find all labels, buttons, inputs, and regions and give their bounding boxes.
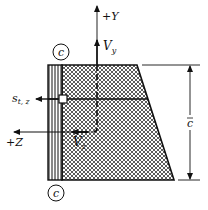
cross-section-diagram: +Y Vy st, z +Z Vz c c c — [0, 0, 208, 210]
vertical-striped-strip — [48, 65, 62, 180]
label-plus-z: +Z — [6, 136, 23, 149]
label-plus-y: +Y — [102, 10, 120, 23]
label-c-top: c — [58, 46, 64, 59]
label-s-tz: st, z — [12, 92, 29, 106]
element-square — [59, 95, 67, 103]
label-c-bar: c — [187, 117, 193, 130]
label-vy: Vy — [103, 39, 117, 55]
hatched-trapezoid — [62, 65, 174, 180]
label-c-bottom: c — [53, 187, 59, 200]
